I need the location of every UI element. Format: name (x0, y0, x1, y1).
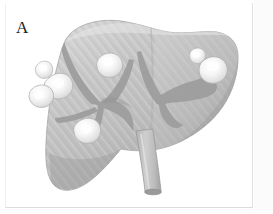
panel-gutter-bottom (0, 209, 273, 214)
bile-duct-lumen (145, 189, 162, 195)
liver-illustration (5, 3, 253, 208)
panel-label: A (16, 19, 29, 36)
panel-gutter-right (254, 0, 273, 214)
figure-panel: A (0, 0, 273, 214)
